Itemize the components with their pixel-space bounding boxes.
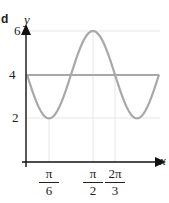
x-tick-pi2-denominator: 2 bbox=[83, 183, 103, 199]
x-tick-pi-over-2: π 2 bbox=[83, 167, 103, 199]
x-tick-pi6-numerator: π bbox=[39, 167, 59, 183]
y-tick-2: 2 bbox=[12, 111, 19, 124]
x-tick-pi6-denominator: 6 bbox=[39, 183, 59, 199]
x-tick-2pi-over-3: 2π 3 bbox=[105, 167, 125, 199]
x-tick-pi-over-6: π 6 bbox=[39, 167, 59, 199]
x-tick-2pi3-denominator: 3 bbox=[105, 183, 125, 199]
gridlines bbox=[27, 31, 160, 162]
x-tick-pi2-numerator: π bbox=[83, 167, 103, 183]
y-axis-label: y bbox=[24, 13, 30, 26]
y-tick-4: 4 bbox=[9, 68, 16, 81]
x-axis-label: x bbox=[160, 154, 166, 167]
x-tick-2pi3-numerator: 2π bbox=[105, 167, 125, 183]
y-tick-6: 6 bbox=[14, 24, 21, 37]
